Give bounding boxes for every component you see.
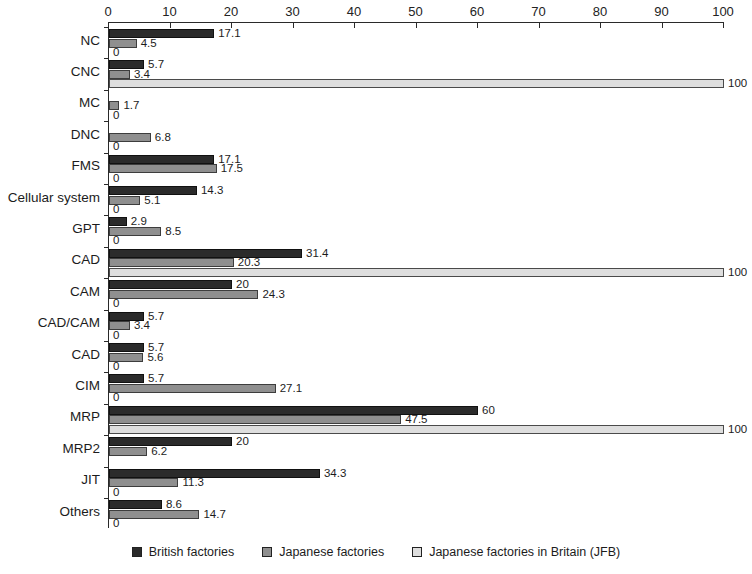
bar-value-label: 0	[113, 235, 119, 246]
bar-value-label: 4.5	[141, 38, 157, 49]
bar-value-label: 0	[113, 487, 119, 498]
bar-1	[109, 447, 147, 456]
chart-category-row: CNC5.73.4100	[0, 60, 752, 91]
x-axis-tick-mark	[477, 22, 478, 28]
bar-value-label: 31.4	[306, 248, 328, 259]
x-axis-tick-mark	[662, 22, 663, 28]
bar-value-label: 1.7	[123, 100, 139, 111]
x-axis-tick-mark	[354, 22, 355, 28]
chart-category-row: CAM2024.30	[0, 280, 752, 311]
bar-value-label: 8.5	[165, 226, 181, 237]
category-axis-tick	[104, 310, 109, 311]
bar-2	[109, 425, 724, 434]
bar-value-label: 14.7	[203, 509, 225, 520]
bar-value-label: 0	[113, 173, 119, 184]
category-axis-tick	[104, 153, 109, 154]
bar-value-label: 2.9	[131, 216, 147, 227]
category-label: CAD	[0, 347, 100, 362]
bar-1	[109, 164, 217, 173]
category-label: CIM	[0, 378, 100, 393]
bar-0	[109, 249, 302, 258]
category-label: CAD	[0, 252, 100, 267]
legend-swatch-icon	[132, 547, 142, 557]
bar-1	[109, 478, 178, 487]
bar-1	[109, 510, 199, 519]
bar-value-label: 5.1	[144, 195, 160, 206]
bar-value-label: 3.4	[134, 320, 150, 331]
chart-category-row: CAD/CAM5.73.40	[0, 312, 752, 343]
chart-category-row: CIM5.727.10	[0, 374, 752, 405]
x-axis-tick-label: 20	[224, 4, 238, 19]
bar-value-label: 11.3	[182, 477, 204, 488]
bar-value-label: 0	[113, 47, 119, 58]
chart-category-row: CAD31.420.3100	[0, 249, 752, 280]
x-axis-tick-mark	[539, 22, 540, 28]
legend-item: Japanese factories	[262, 545, 384, 559]
category-axis-tick	[104, 58, 109, 59]
bar-value-label: 0	[113, 518, 119, 529]
x-axis-tick-mark	[600, 22, 601, 28]
bar-0	[109, 343, 144, 352]
bar-value-label: 20	[236, 436, 249, 447]
bar-2	[109, 79, 724, 88]
x-axis-tick-label: 90	[654, 4, 668, 19]
legend-item: British factories	[132, 545, 234, 559]
legend-label: Japanese factories in Britain (JFB)	[429, 545, 620, 559]
x-axis-tick-label: 100	[712, 4, 734, 19]
bar-value-label: 100	[728, 267, 747, 278]
category-axis-tick	[104, 121, 109, 122]
category-label: Others	[0, 504, 100, 519]
x-axis-tick-label: 0	[104, 4, 111, 19]
bar-chart: 0102030405060708090100 NC17.14.50CNC5.73…	[0, 0, 752, 574]
x-axis-tick-label: 30	[285, 4, 299, 19]
bar-value-label: 6.8	[155, 132, 171, 143]
bar-0	[109, 280, 232, 289]
bar-0	[109, 155, 214, 164]
bar-1	[109, 290, 258, 299]
bar-value-label: 5.6	[147, 352, 163, 363]
category-label: MRP2	[0, 441, 100, 456]
x-axis-tick-label: 80	[593, 4, 607, 19]
bar-value-label: 24.3	[262, 289, 284, 300]
category-axis-tick	[104, 498, 109, 499]
category-axis-tick	[104, 27, 109, 28]
x-axis-tick-mark	[170, 22, 171, 28]
category-label: GPT	[0, 221, 100, 236]
bar-value-label: 6.2	[151, 446, 167, 457]
category-axis-tick	[104, 467, 109, 468]
x-axis-tick-label: 60	[470, 4, 484, 19]
bar-value-label: 17.5	[221, 163, 243, 174]
chart-category-row: GPT2.98.50	[0, 217, 752, 248]
bar-1	[109, 384, 276, 393]
category-label: FMS	[0, 158, 100, 173]
bar-0	[109, 500, 162, 509]
category-label: Cellular system	[0, 190, 100, 205]
bar-0	[109, 374, 144, 383]
bar-0	[109, 469, 320, 478]
category-axis-tick	[104, 435, 109, 436]
bar-value-label: 34.3	[324, 468, 346, 479]
legend-label: British factories	[149, 545, 234, 559]
legend-swatch-icon	[412, 547, 422, 557]
bar-0	[109, 29, 214, 38]
bar-value-label: 5.7	[148, 311, 164, 322]
x-axis-tick-mark	[293, 22, 294, 28]
chart-category-row: DNC6.80	[0, 123, 752, 154]
bar-1	[109, 70, 130, 79]
x-axis-tick-label: 40	[347, 4, 361, 19]
bar-1	[109, 258, 234, 267]
bar-value-label: 100	[728, 78, 747, 89]
category-axis-tick	[104, 215, 109, 216]
category-label: JIT	[0, 472, 100, 487]
category-label: CNC	[0, 64, 100, 79]
bar-value-label: 0	[113, 204, 119, 215]
bar-value-label: 5.7	[148, 373, 164, 384]
legend-swatch-icon	[262, 547, 272, 557]
bar-value-label: 14.3	[201, 185, 223, 196]
category-label: CAD/CAM	[0, 315, 100, 330]
category-axis-tick	[104, 247, 109, 248]
chart-category-row: Others8.614.70	[0, 500, 752, 531]
category-label: CAM	[0, 284, 100, 299]
chart-category-row: JIT34.311.30	[0, 469, 752, 500]
bar-2	[109, 268, 724, 277]
